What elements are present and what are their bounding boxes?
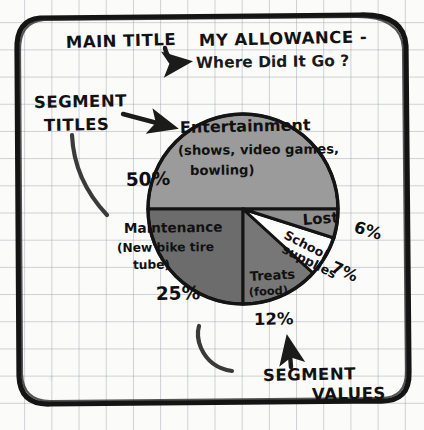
- chart-title-line1: MY ALLOWANCE -: [199, 27, 368, 50]
- main-title-callout: MAIN TITLE: [66, 30, 177, 52]
- slice-detail-entertainment-line2: bowling): [190, 162, 255, 178]
- slice-value-maintenance: 25%: [156, 282, 201, 304]
- slice-value-treats: 12%: [254, 309, 294, 329]
- slice-value-school-supplies: 7%: [328, 257, 361, 285]
- slice-label-lost: Lost: [302, 209, 339, 229]
- slice-detail-maintenance-line2: tube): [133, 258, 170, 272]
- segment-values-callout-line2: VALUES: [312, 384, 386, 404]
- segment-titles-callout-line1: SEGMENT: [34, 91, 128, 112]
- segment-values-callout-line1: SEGMENT: [263, 364, 357, 385]
- slice-value-lost: 6%: [352, 218, 385, 244]
- sketch-canvas: MAIN TITLE MY ALLOWANCE - Where Did It G…: [0, 0, 424, 430]
- text-layer: MAIN TITLE MY ALLOWANCE - Where Did It G…: [0, 0, 424, 430]
- slice-detail-treats: (food): [248, 283, 288, 299]
- slice-value-entertainment: 50%: [126, 168, 171, 190]
- slice-label-entertainment: Entertainment: [180, 115, 311, 137]
- slice-label-maintenance: Maintenance: [124, 219, 223, 236]
- chart-title-line2: Where Did It Go ?: [196, 52, 349, 72]
- slice-detail-entertainment-line1: (shows, video games,: [178, 141, 339, 158]
- segment-titles-callout-line2: TITLES: [44, 115, 110, 135]
- slice-label-treats: Treats: [249, 267, 295, 284]
- slice-detail-maintenance-line1: (New bike tire: [117, 240, 214, 255]
